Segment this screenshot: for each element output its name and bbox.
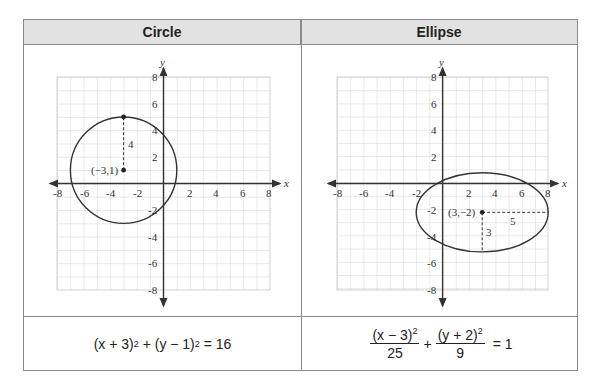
- svg-text:8: 8: [431, 71, 437, 83]
- svg-text:-8: -8: [427, 284, 437, 296]
- svg-text:6: 6: [519, 187, 525, 199]
- svg-text:2: 2: [466, 187, 472, 199]
- center-label: (−3,1): [91, 164, 119, 177]
- svg-text:-4: -4: [106, 187, 116, 199]
- svg-text:6: 6: [240, 187, 246, 199]
- svg-text:-8: -8: [53, 187, 63, 199]
- center-point: [480, 210, 485, 215]
- y-axis-label: y: [438, 56, 444, 68]
- semi-minor-label: 3: [486, 226, 492, 238]
- svg-text:8: 8: [152, 71, 158, 83]
- ellipse-graph: x y -8 -6 -4 -2 2 4 6 8 8 6 4 2 -2 -4 -6…: [328, 56, 567, 306]
- svg-text:-2: -2: [133, 187, 142, 199]
- top-point: [121, 115, 126, 120]
- svg-text:8: 8: [266, 187, 272, 199]
- svg-text:-4: -4: [427, 231, 437, 243]
- svg-text:-4: -4: [148, 231, 158, 243]
- svg-text:2: 2: [152, 151, 158, 163]
- svg-text:-2: -2: [412, 187, 421, 199]
- svg-text:4: 4: [213, 187, 219, 199]
- svg-text:8: 8: [545, 187, 551, 199]
- svg-text:6: 6: [152, 98, 158, 110]
- svg-text:4: 4: [431, 124, 437, 136]
- svg-text:-8: -8: [148, 284, 158, 296]
- svg-text:2: 2: [431, 151, 437, 163]
- svg-text:2: 2: [187, 187, 193, 199]
- svg-text:-6: -6: [148, 257, 158, 269]
- svg-text:4: 4: [492, 187, 498, 199]
- center-label: (3,−2): [448, 206, 476, 219]
- semi-major-label: 5: [510, 215, 516, 227]
- x-axis-label: x: [283, 177, 289, 189]
- svg-text:-2: -2: [427, 204, 436, 216]
- svg-text:-6: -6: [359, 187, 369, 199]
- circle-graph: x y -8 -6 -4 -2 2 4 6 8 8 6 4 2 -2 -4 -6…: [50, 56, 289, 306]
- x-axis-label: x: [561, 177, 567, 189]
- svg-text:6: 6: [431, 98, 437, 110]
- graphs: x y -8 -6 -4 -2 2 4 6 8 8 6 4 2 -2 -4 -6…: [0, 0, 598, 392]
- radius-label: 4: [128, 138, 134, 150]
- center-point: [121, 168, 126, 173]
- svg-text:-6: -6: [80, 187, 90, 199]
- svg-text:-4: -4: [385, 187, 395, 199]
- svg-text:-6: -6: [427, 257, 437, 269]
- y-axis-label: y: [159, 56, 165, 68]
- svg-text:-8: -8: [333, 187, 343, 199]
